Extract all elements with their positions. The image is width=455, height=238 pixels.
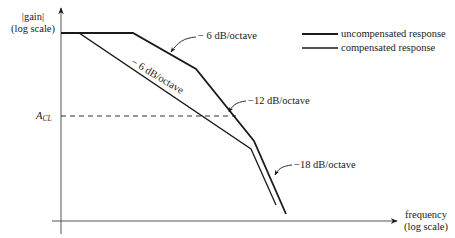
annotation-6db-uncompensated: − 6 dB/octave xyxy=(198,30,257,42)
x-axis-label-line2: (log scale) xyxy=(398,221,454,233)
x-axis-label-line1: frequency xyxy=(398,209,454,221)
arrow-6db-uncomp-icon xyxy=(171,37,196,52)
x-axis-label: frequency (log scale) xyxy=(398,209,454,233)
annotation-18db: −18 dB/octave xyxy=(294,159,356,171)
arrow-18db-icon xyxy=(275,165,292,175)
y-axis-label-line2: (log scale) xyxy=(6,23,60,35)
legend-label-uncompensated: uncompensated response xyxy=(341,28,446,40)
annotation-12db: −12 dB/octave xyxy=(248,95,310,107)
arrow-12db-icon xyxy=(229,101,246,112)
compensated-response-curve xyxy=(61,33,276,205)
acl-label-sub: CL xyxy=(42,114,51,123)
y-axis-label-line1: |gain| xyxy=(6,11,60,23)
uncompensated-response-curve xyxy=(61,33,286,214)
legend-label-compensated: compensated response xyxy=(341,42,435,54)
y-axis-label: |gain| (log scale) xyxy=(6,11,60,35)
acl-label: ACL xyxy=(36,110,52,125)
